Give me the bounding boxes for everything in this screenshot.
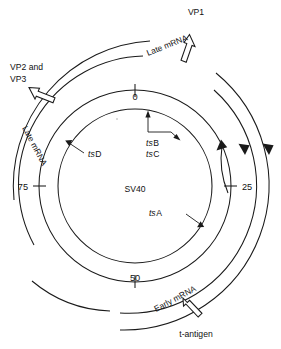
- tsd-leader-line: [69, 143, 84, 153]
- early-mrna-arc-inner: [120, 90, 257, 313]
- tick-label-75: 75: [18, 182, 28, 192]
- tsb-prefix: ts: [146, 138, 153, 148]
- map-origin-dot: [116, 118, 117, 119]
- tsd-prefix: ts: [88, 149, 95, 159]
- tsd-gene: D: [95, 149, 101, 159]
- vp2-vp3-product-arrow: [29, 88, 55, 103]
- sv40-genome-figure: 0 25 50 75 SV40 tsB tsC tsD tsA VP1 Late…: [0, 0, 281, 349]
- tsbc-arrowhead-up: [145, 111, 150, 118]
- tick-label-25: 25: [242, 182, 252, 192]
- tsb-label: tsB: [146, 138, 159, 148]
- tick-label-0: 0: [132, 92, 137, 102]
- vp2-vp3-product-label-line2: VP3: [10, 74, 26, 84]
- tsa-gene: A: [156, 208, 162, 218]
- figure-canvas: 0 25 50 75 SV40 tsB tsC tsD tsA VP1 Late…: [0, 0, 281, 349]
- tsc-prefix: ts: [146, 149, 153, 159]
- late-mrna-label-vp1: Late mRNA: [145, 32, 189, 58]
- early-mrna-arc-lower-left: [32, 281, 110, 311]
- vp2-vp3-product-label-line1: VP2 and: [10, 62, 43, 72]
- tsb-gene: B: [153, 138, 159, 148]
- tsa-prefix: ts: [149, 208, 156, 218]
- tsa-label: tsA: [149, 208, 162, 218]
- tsd-label: tsD: [88, 149, 102, 159]
- t-antigen-product-arrow: [183, 298, 202, 317]
- genome-center-label: SV40: [124, 184, 145, 194]
- t-antigen-product-label: t-antigen: [179, 329, 213, 339]
- tsc-gene: C: [153, 149, 159, 159]
- vp1-product-label: VP1: [188, 7, 204, 17]
- tsa-leader-line: [186, 214, 200, 224]
- tick-label-50: 50: [130, 273, 140, 283]
- tsc-label: tsC: [146, 149, 160, 159]
- early-mrna-direction-arrowhead-inner: [239, 144, 250, 155]
